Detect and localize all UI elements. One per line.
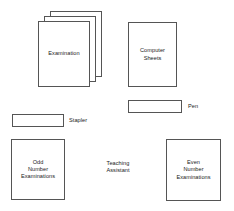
even-number-examinations-label: Even Number Examinations <box>166 139 221 201</box>
pen-box[interactable] <box>128 100 182 113</box>
diagram-canvas: Examination Computer Sheets Pen Stapler … <box>0 0 234 211</box>
teaching-assistant-label: Teaching Assistant <box>94 158 142 176</box>
stapler-box[interactable] <box>12 114 64 127</box>
pen-label: Pen <box>188 100 224 113</box>
computer-sheets-label: Computer Sheets <box>128 22 177 87</box>
examination-label: Examination <box>38 21 90 87</box>
stapler-label: Stapler <box>69 114 113 127</box>
odd-number-examinations-label: Odd Number Examinations <box>11 139 65 200</box>
